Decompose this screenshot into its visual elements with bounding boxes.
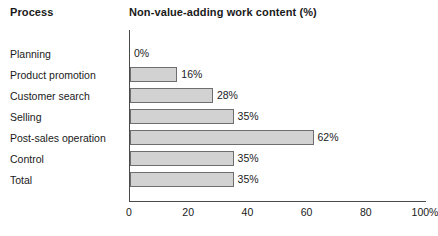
bar bbox=[130, 151, 234, 166]
bar-rows: 0% 16% 28% 35% 62% 35% 35% bbox=[130, 44, 426, 191]
bar bbox=[130, 172, 234, 187]
x-tick-label: 60 bbox=[301, 205, 313, 219]
bar-value-label: 35% bbox=[238, 172, 259, 187]
chart-title: Non-value-adding work content (%) bbox=[129, 6, 317, 18]
x-tick-label: 80 bbox=[360, 205, 372, 219]
category-label: Post-sales operation bbox=[10, 128, 128, 149]
bar-row: 62% bbox=[130, 128, 426, 149]
x-tick-label: 20 bbox=[182, 205, 194, 219]
bar-row: 0% bbox=[130, 44, 426, 65]
bar-value-label: 62% bbox=[318, 130, 339, 145]
column-header-process: Process bbox=[10, 6, 54, 18]
bar-row: 35% bbox=[130, 107, 426, 128]
bar-row: 35% bbox=[130, 170, 426, 191]
x-tick-label: 0 bbox=[126, 205, 132, 219]
category-label: Selling bbox=[10, 107, 128, 128]
category-label: Product promotion bbox=[10, 65, 128, 86]
x-axis-line bbox=[129, 201, 426, 202]
bar-row: 35% bbox=[130, 149, 426, 170]
category-label: Customer search bbox=[10, 86, 128, 107]
x-tick-label: 100% bbox=[412, 205, 438, 219]
category-label-column: Planning Product promotion Customer sear… bbox=[10, 44, 128, 191]
category-label: Total bbox=[10, 170, 128, 191]
bar-value-label: 35% bbox=[238, 109, 259, 124]
category-label: Planning bbox=[10, 44, 128, 65]
bar bbox=[130, 130, 314, 145]
bar-row: 28% bbox=[130, 86, 426, 107]
bar-value-label: 28% bbox=[217, 88, 238, 103]
bar bbox=[130, 109, 234, 124]
bar bbox=[130, 88, 213, 103]
x-axis-tick-labels: 0 20 40 60 80 100% bbox=[129, 205, 426, 221]
x-tick-label: 40 bbox=[242, 205, 254, 219]
bar-row: 16% bbox=[130, 65, 426, 86]
bar-value-label: 35% bbox=[238, 151, 259, 166]
bar-value-label: 0% bbox=[134, 46, 149, 61]
bar-chart-plot-area: 0% 16% 28% 35% 62% 35% 35% bbox=[129, 30, 426, 202]
bar-value-label: 16% bbox=[181, 67, 202, 82]
bar bbox=[130, 67, 177, 82]
category-label: Control bbox=[10, 149, 128, 170]
